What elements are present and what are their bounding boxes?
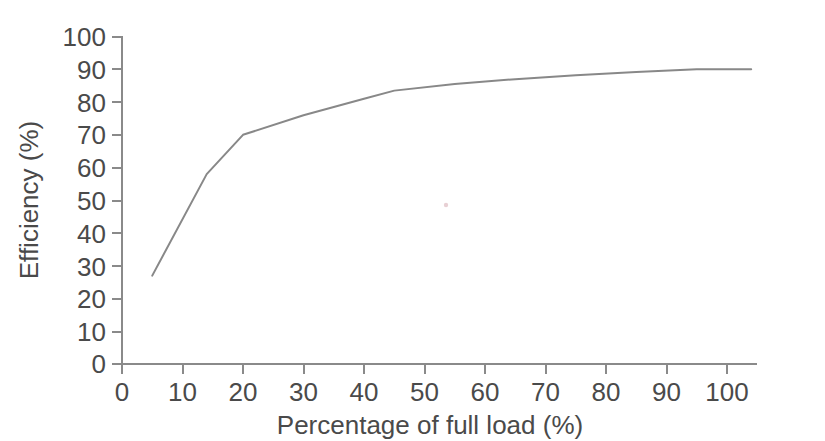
y-tick-label: 40 xyxy=(77,219,106,249)
x-axis-title: Percentage of full load (%) xyxy=(277,410,583,440)
x-tick-label: 70 xyxy=(531,377,560,407)
chart-figure: 100 90 80 70 60 50 40 30 20 10 0 xyxy=(0,0,825,441)
x-tick-label: 10 xyxy=(168,377,197,407)
y-tick-label: 10 xyxy=(77,317,106,347)
y-tick-label: 90 xyxy=(77,55,106,85)
x-tick-label: 30 xyxy=(289,377,318,407)
y-tick-label: 30 xyxy=(77,252,106,282)
x-tick-label: 20 xyxy=(229,377,258,407)
x-tick-label: 80 xyxy=(592,377,621,407)
y-tick-label: 20 xyxy=(77,284,106,314)
line-chart-canvas: 100 90 80 70 60 50 40 30 20 10 0 xyxy=(0,0,825,441)
y-axis-title: Efficiency (%) xyxy=(14,121,44,279)
x-tick-label: 40 xyxy=(350,377,379,407)
x-tick-label: 0 xyxy=(115,377,129,407)
scan-artifact-speck xyxy=(444,203,448,207)
x-tick-label: 100 xyxy=(705,377,748,407)
y-tick-label: 50 xyxy=(77,186,106,216)
x-tick-label: 50 xyxy=(410,377,439,407)
chart-background xyxy=(0,0,825,441)
y-tick-label: 60 xyxy=(77,153,106,183)
x-tick-label: 90 xyxy=(652,377,681,407)
y-tick-label: 0 xyxy=(92,349,106,379)
y-tick-label: 70 xyxy=(77,120,106,150)
y-tick-label: 100 xyxy=(63,22,106,52)
x-tick-label: 60 xyxy=(471,377,500,407)
y-tick-label: 80 xyxy=(77,88,106,118)
